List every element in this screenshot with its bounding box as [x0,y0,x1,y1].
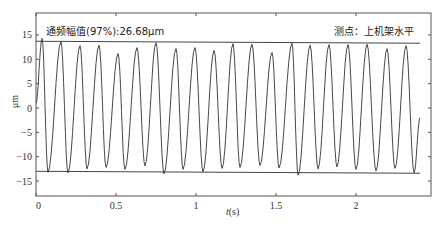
vibration-chart: 151050−5−10−15 00.511.52 通频幅值(97%):26.68… [0,0,443,232]
x-tick-label: 1 [194,200,199,211]
measure-point-annotation: 测点：上机架水平 [334,25,414,37]
lower-envelope-line [36,171,420,173]
y-tick-label: 5 [27,78,32,89]
y-tick-label: 10 [22,54,32,65]
y-tick-label: −15 [16,176,32,187]
x-axis-label: t(s) [226,206,239,218]
x-tick-label: 0.5 [110,200,123,211]
y-tick-label: 15 [22,29,32,40]
amplitude-annotation: 通频幅值(97%):26.68μm [46,25,164,37]
x-tick-label: 1.5 [270,200,283,211]
y-tick-label: −5 [21,127,32,138]
y-tick-label: 0 [27,103,32,114]
y-axis-label: μm [9,95,20,108]
x-tick-label: 2 [354,200,359,211]
x-tick-label: 0 [36,200,41,211]
y-tick-label: −10 [16,151,32,162]
upper-envelope-line [36,41,420,43]
vibration-waveform [36,38,420,175]
